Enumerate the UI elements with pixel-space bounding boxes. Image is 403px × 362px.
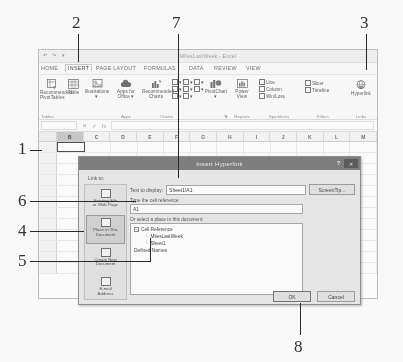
apps-for-office-button[interactable]: Apps for Office ▾ [111, 76, 141, 99]
other-chart-dropdown[interactable]: ▾▾ [172, 93, 204, 99]
sparkline-column-button[interactable]: Column [259, 86, 301, 92]
ribbon-group-label-filters: Filters [303, 114, 343, 119]
document-place-icon [101, 218, 111, 227]
ok-button[interactable]: OK [273, 291, 311, 302]
tree-node-mileslastweek[interactable]: └ MilesLastWeek [134, 233, 299, 240]
tab-home[interactable]: HOME [41, 65, 58, 71]
power-view-label-2: View [229, 94, 255, 99]
expander-icon[interactable]: − [134, 227, 139, 232]
grid-cell[interactable] [350, 142, 377, 152]
tree-node-cell-reference[interactable]: − Cell Reference [134, 226, 299, 233]
sparkline-line-label: Line [266, 80, 275, 85]
text-to-display-row: Text to display: Sheet1!A1 ScreenTip... [130, 184, 355, 195]
column-header-h[interactable]: H [217, 132, 244, 141]
tab-insert[interactable]: INSERT [65, 64, 92, 72]
sparkline-winloss-icon [259, 93, 265, 99]
grid-cell[interactable] [85, 142, 112, 152]
tree-node-sheet1[interactable]: └ Sheet1 [134, 240, 299, 247]
row-header[interactable] [39, 153, 57, 163]
power-view-icon [237, 79, 248, 89]
insert-function-icon[interactable]: fx [102, 123, 106, 129]
power-view-button[interactable]: Power View [229, 76, 255, 99]
grid-cell[interactable] [244, 142, 271, 152]
column-chart-dropdown[interactable]: ▾▾▾ [172, 79, 204, 85]
illustrations-button[interactable]: Illustrations ▾ [84, 76, 110, 99]
sidebar-item-email-address[interactable]: E-mail Address [86, 274, 125, 303]
sparkline-winloss-button[interactable]: Win/Loss [259, 93, 301, 99]
text-to-display-input[interactable]: Sheet1!A1 [166, 185, 306, 195]
grid-cell[interactable] [191, 142, 218, 152]
tab-view[interactable]: VIEW [246, 65, 261, 71]
grid-cell[interactable] [111, 142, 138, 152]
pivotchart-arrow[interactable]: ▾ [204, 94, 228, 99]
row-header[interactable] [39, 208, 57, 218]
illustrations-dropdown-arrow[interactable]: ▾ [84, 94, 110, 99]
ribbon-group-filters: Slicer Timeline Filters [303, 76, 343, 119]
tab-review[interactable]: REVIEW [214, 65, 237, 71]
ribbon-group-label-sparklines: Sparklines [257, 114, 301, 119]
tab-page-layout[interactable]: PAGE LAYOUT [96, 65, 136, 71]
tree-node-defined-names[interactable]: Defined Names [134, 247, 299, 254]
column-header-i[interactable]: I [244, 132, 271, 141]
ribbon-group-label-links: Links [345, 114, 377, 119]
screenshot-root: ↶ ↷ ▾ MilesLastWeek - Excel HOME INSERT … [0, 0, 403, 362]
screentip-button[interactable]: ScreenTip... [309, 184, 355, 195]
sparkline-column-icon [259, 86, 265, 92]
row-header[interactable] [39, 186, 57, 196]
sparkline-line-button[interactable]: Line [259, 79, 301, 85]
sidebar-item-place-in-this-document[interactable]: Place in This Document [86, 215, 125, 244]
tab-data[interactable]: DATA [189, 65, 204, 71]
row-header[interactable] [39, 164, 57, 174]
charts-dialog-launcher[interactable]: ◥ [224, 114, 227, 119]
confirm-entry-icon[interactable]: ✓ [92, 123, 97, 129]
formula-input[interactable] [111, 121, 374, 130]
tab-formulas[interactable]: FORMULAS [144, 65, 176, 71]
column-header-l[interactable]: L [324, 132, 351, 141]
grid-cell[interactable] [138, 142, 165, 152]
grid-cell[interactable] [297, 142, 324, 152]
row-header[interactable] [39, 263, 57, 273]
select-all-corner[interactable] [39, 132, 57, 141]
ribbon-group-label-tables: Tables [39, 114, 83, 119]
column-header-k[interactable]: K [297, 132, 324, 141]
ribbon-group-tables: ? Recommended PivotTables Table Table [39, 76, 83, 119]
bar-chart-dropdown[interactable]: ▾▾▾ [172, 86, 204, 92]
sidebar-label-line2: Document [87, 233, 124, 238]
place-tree-view[interactable]: − Cell Reference └ MilesLastWeek └ Sheet… [130, 223, 303, 295]
grid-cell[interactable] [324, 142, 351, 152]
ribbon-group-charts: Recommended Charts ▾▾▾ ▾▾▾ ▾▾ PivotChart… [142, 76, 228, 119]
column-header-g[interactable]: G [190, 132, 217, 141]
callout-number-3: 3 [360, 14, 369, 31]
column-header-b[interactable]: B [57, 132, 84, 141]
grid-cell[interactable] [271, 142, 298, 152]
table-button[interactable]: Table [65, 77, 82, 95]
active-cell-b1[interactable] [57, 142, 85, 152]
cancel-entry-icon[interactable]: ✕ [82, 123, 87, 129]
slicer-button[interactable]: Slicer [305, 80, 343, 86]
row-header[interactable] [39, 175, 57, 185]
column-header-j[interactable]: J [270, 132, 297, 141]
document-title: MilesLastWeek - Excel [39, 53, 377, 59]
ribbon-tab-strip: HOME INSERT PAGE LAYOUT FORMULAS DATA RE… [39, 63, 377, 75]
row-header[interactable] [39, 241, 57, 251]
hyperlink-button[interactable]: Hyperlink [345, 76, 377, 96]
timeline-button[interactable]: Timeline [305, 87, 343, 93]
sparkline-column-label: Column [266, 87, 282, 92]
column-header-d[interactable]: D [110, 132, 137, 141]
help-button[interactable]: ? [337, 160, 340, 166]
sidebar-item-existing-file-or-web-page[interactable]: Existing File or Web Page [86, 186, 125, 215]
cell-reference-input[interactable]: A1 [130, 204, 303, 214]
row-header[interactable] [39, 219, 57, 229]
sidebar-item-create-new-document[interactable]: Create New Document [86, 245, 125, 274]
column-header-c[interactable]: C [84, 132, 111, 141]
column-header-e[interactable]: E [137, 132, 164, 141]
cancel-button[interactable]: Cancel [317, 291, 355, 302]
recommended-pivottables-button[interactable]: ? Recommended PivotTables [40, 77, 64, 100]
recommended-charts-button[interactable]: Recommended Charts [142, 77, 170, 99]
close-icon[interactable]: ✕ [344, 159, 358, 168]
name-box[interactable] [41, 121, 77, 130]
grid-cell[interactable] [217, 142, 244, 152]
sparkline-winloss-label: Win/Loss [266, 94, 285, 99]
column-header-m[interactable]: M [350, 132, 377, 141]
pivotchart-button[interactable]: PivotChart ▾ [204, 77, 228, 99]
